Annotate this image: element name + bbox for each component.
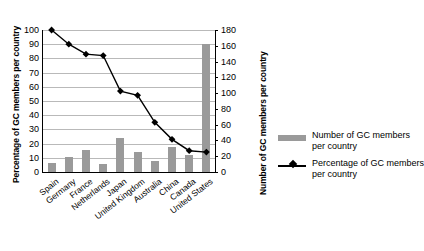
- right-tick-mark: [215, 30, 218, 31]
- left-tick-label: 40: [17, 111, 39, 120]
- line-series: [43, 30, 215, 172]
- right-tick-mark: [215, 46, 218, 47]
- right-tick-mark: [215, 77, 218, 78]
- right-tick-label: 80: [221, 104, 231, 113]
- data-point-marker: [134, 92, 141, 99]
- left-tick-label: 0: [17, 168, 39, 177]
- legend-label-bars-line1: Number of GC members: [312, 130, 410, 140]
- left-tick-label: 80: [17, 54, 39, 63]
- legend-label-bars-line2: per country: [312, 141, 357, 151]
- data-point-marker: [117, 88, 124, 95]
- right-tick-label: 60: [221, 120, 231, 129]
- right-tick-label: 20: [221, 152, 231, 161]
- line-path: [52, 30, 207, 152]
- data-point-marker: [100, 52, 107, 59]
- left-tick-label: 50: [17, 97, 39, 106]
- left-tick-label: 70: [17, 68, 39, 77]
- data-point-marker: [83, 51, 90, 58]
- right-tick-label: 140: [221, 57, 236, 66]
- right-tick-mark: [215, 156, 218, 157]
- right-tick-label: 120: [221, 73, 236, 82]
- legend-label-line-line1: Percentage of GC members: [312, 158, 424, 168]
- right-tick-label: 160: [221, 41, 236, 50]
- bar-swatch-icon: [278, 135, 306, 141]
- right-tick-mark: [215, 125, 218, 126]
- right-tick-mark: [215, 172, 218, 173]
- left-tick-label: 10: [17, 153, 39, 162]
- right-tick-label: 100: [221, 89, 236, 98]
- plot-area: 0102030405060708090100 02040608010012014…: [42, 30, 216, 173]
- left-tick-label: 60: [17, 82, 39, 91]
- right-tick-mark: [215, 62, 218, 63]
- diamond-marker-icon: [289, 160, 297, 168]
- left-tick-label: 90: [17, 40, 39, 49]
- right-tick-mark: [215, 140, 218, 141]
- legend-label-line-line2: per country: [312, 169, 357, 179]
- legend-label-line: Percentage of GC members per country: [312, 158, 424, 179]
- left-tick-label: 30: [17, 125, 39, 134]
- left-tick-label: 20: [17, 139, 39, 148]
- chart-legend: Number of GC members per country Percent…: [278, 131, 411, 166]
- right-tick-label: 0: [221, 168, 226, 177]
- right-axis-title: Number of GC members per country: [258, 51, 268, 195]
- legend-label-bars: Number of GC members per country: [312, 130, 410, 151]
- left-tick-label: 100: [17, 26, 39, 35]
- right-tick-mark: [215, 109, 218, 110]
- right-tick-label: 180: [221, 26, 236, 35]
- right-tick-mark: [215, 93, 218, 94]
- data-point-marker: [203, 149, 210, 156]
- right-tick-label: 40: [221, 136, 231, 145]
